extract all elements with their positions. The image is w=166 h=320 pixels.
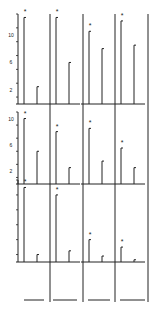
y-tick-label: 10 [8, 32, 14, 38]
y-tick-label: 6 [10, 59, 13, 65]
y-tick-label: 2 [10, 168, 13, 174]
significance-star: * [121, 12, 124, 19]
small-multiples-chart: 26102610************ [0, 0, 166, 320]
significance-star: * [24, 110, 27, 117]
significance-star: * [56, 186, 59, 193]
significance-star: * [56, 123, 59, 130]
significance-star: * [121, 139, 124, 146]
significance-star: * [24, 178, 27, 185]
significance-star: * [89, 119, 92, 126]
y-tick-label: 6 [10, 142, 13, 148]
significance-star: * [121, 238, 124, 245]
significance-star: * [24, 8, 27, 15]
y-tick-label: 2 [10, 87, 13, 93]
y-tick-label: 10 [8, 116, 14, 122]
significance-star: * [89, 231, 92, 238]
chart-canvas: 26102610************ [0, 0, 166, 320]
significance-star: * [89, 22, 92, 29]
significance-star: * [56, 8, 59, 15]
